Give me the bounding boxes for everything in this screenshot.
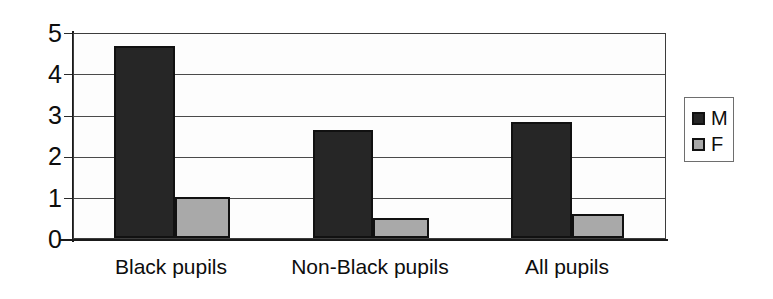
y-tick-label-1: 1 bbox=[34, 186, 62, 211]
bar-m-all-pupils bbox=[511, 122, 572, 238]
y-tick-label-3: 3 bbox=[34, 103, 62, 128]
x-axis-baseline bbox=[60, 239, 668, 241]
x-axis-label-non-black-pupils: Non-Black pupils bbox=[255, 255, 485, 279]
bar-m-black-pupils bbox=[114, 46, 175, 238]
legend-label-m: M bbox=[711, 108, 728, 128]
x-axis-label-black-pupils: Black pupils bbox=[56, 255, 286, 279]
legend-swatch-f-icon bbox=[692, 138, 705, 151]
x-axis-label-all-pupils: All pupils bbox=[452, 255, 682, 279]
legend-swatch-m-icon bbox=[692, 112, 705, 125]
chart-legend: M F bbox=[684, 97, 734, 162]
legend-entry-f: F bbox=[692, 133, 723, 155]
y-axis-tick-labels: 5 4 3 2 1 0 bbox=[8, 0, 62, 299]
y-tick-label-4: 4 bbox=[34, 62, 62, 87]
bar-f-all-pupils bbox=[572, 214, 624, 238]
bar-m-non-black-pupils bbox=[313, 130, 373, 238]
y-tick-label-0: 0 bbox=[34, 227, 62, 252]
bar-f-non-black-pupils bbox=[373, 218, 429, 238]
y-tick-label-2: 2 bbox=[34, 144, 62, 169]
bar-f-black-pupils bbox=[175, 197, 230, 238]
legend-label-f: F bbox=[711, 134, 723, 154]
y-tick-label-5: 5 bbox=[34, 21, 62, 46]
plot-area bbox=[73, 33, 666, 239]
bar-chart-figure: 5 4 3 2 1 0 Black pupils Non-Black pupil… bbox=[0, 0, 773, 299]
legend-entry-m: M bbox=[692, 107, 728, 129]
